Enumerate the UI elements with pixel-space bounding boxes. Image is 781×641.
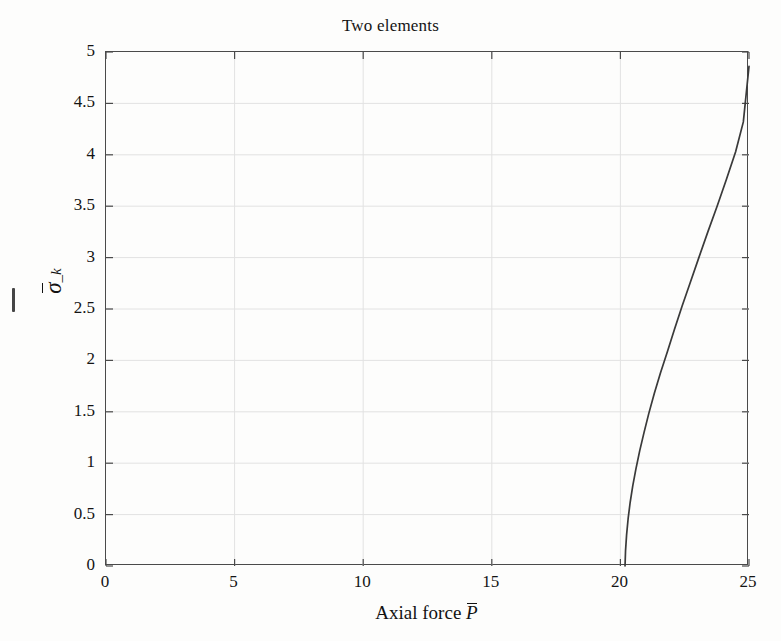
data-curve-line	[625, 66, 749, 566]
y-tick-label: 4	[87, 144, 96, 164]
chart-title: Two elements	[0, 16, 781, 36]
y-tick-label: 0.5	[74, 504, 95, 524]
y-axis-symbol-glyph: σ	[41, 282, 66, 293]
y-tick-label: 2	[87, 349, 96, 369]
x-axis-title: Axial force P	[105, 602, 748, 624]
x-axis-tick-labels: 0510152025	[105, 572, 748, 598]
y-tick-label: 1.5	[74, 401, 95, 421]
gridlines-group	[106, 52, 749, 566]
y-tick-label: 0	[87, 555, 96, 575]
x-tick-label: 10	[354, 572, 371, 592]
x-tick-label: 15	[482, 572, 499, 592]
x-tick-label: 0	[101, 572, 110, 592]
plot-svg	[106, 52, 749, 566]
figure-canvas: Two elements 00.511.522.533.544.55 05101…	[0, 0, 781, 641]
y-axis-title: σ_k	[41, 241, 67, 321]
y-tick-label: 1	[87, 452, 96, 472]
x-axis-symbol-glyph: P	[466, 602, 478, 623]
y-axis-title-symbol: σ	[41, 282, 67, 293]
y-axis-subscript: _k	[48, 268, 64, 282]
x-tick-label: 20	[611, 572, 628, 592]
y-tick-label: 4.5	[74, 92, 95, 112]
x-tick-label: 25	[740, 572, 757, 592]
x-axis-title-text: Axial force	[375, 602, 466, 623]
x-axis-title-symbol: P	[466, 602, 478, 624]
y-tick-label: 3	[87, 247, 96, 267]
y-tick-label: 5	[87, 41, 96, 61]
y-tick-label: 2.5	[74, 298, 95, 318]
x-tick-label: 5	[229, 572, 238, 592]
y-tick-label: 3.5	[74, 195, 95, 215]
plot-area	[105, 51, 748, 565]
